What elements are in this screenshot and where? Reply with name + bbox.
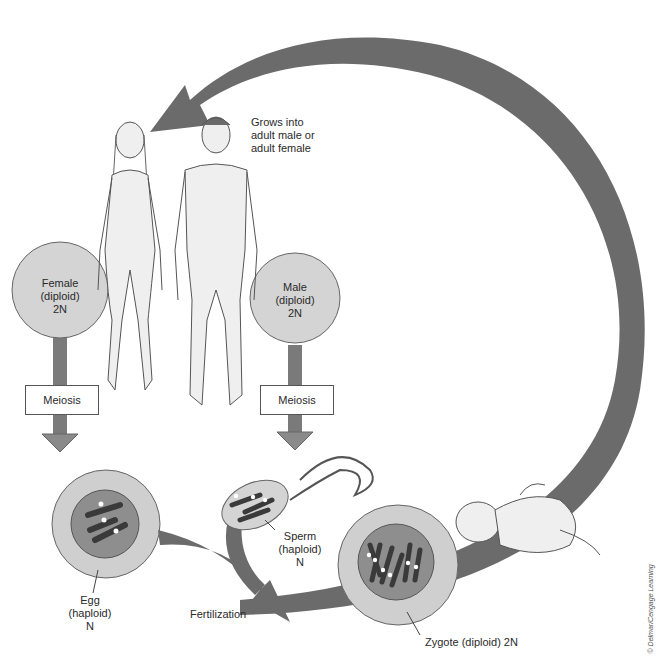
zygote-cell (338, 505, 458, 635)
down-arrow-left-icon (42, 434, 78, 452)
male-stem (288, 345, 302, 390)
adult-female-figure (98, 122, 162, 390)
fertilization-label: Fertilization (190, 608, 246, 621)
copyright-credit: © Delmar/Cengage Learning (647, 544, 654, 654)
life-cycle-diagram (0, 0, 665, 657)
meiosis-box-left: Meiosis (25, 385, 99, 415)
female-label: Female (diploid) 2N (20, 277, 100, 316)
zygote-label: Zygote (diploid) 2N (425, 636, 518, 649)
sperm-cell (214, 457, 373, 540)
adult-male-figure (175, 117, 257, 405)
meiosis-box-right: Meiosis (260, 385, 334, 415)
egg-cell (52, 470, 160, 593)
sperm-label: Sperm (haploid) N (270, 530, 330, 569)
grows-label: Grows into adult male or adult female (251, 116, 315, 155)
egg-label: Egg (haploid) N (60, 594, 120, 633)
male-label: Male (diploid) 2N (255, 281, 335, 320)
down-arrow-right-icon (277, 432, 313, 450)
female-stem (53, 335, 67, 385)
